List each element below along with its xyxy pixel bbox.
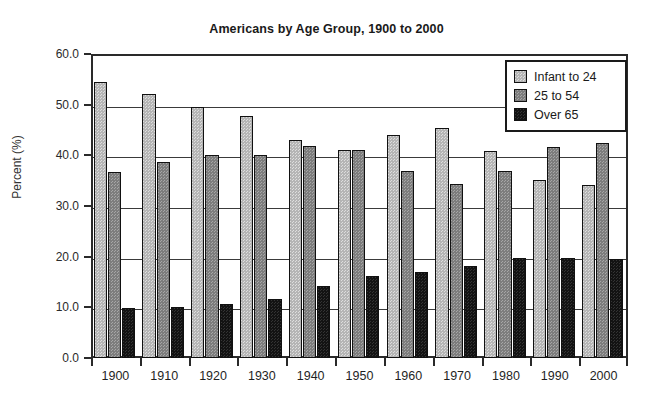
x-axis-tick-label: 1940 (297, 369, 325, 383)
x-axis-tick-mark (335, 358, 337, 366)
legend-item-label: Over 65 (534, 108, 578, 122)
y-axis-tick-mark (84, 306, 91, 308)
x-axis-tick-mark (91, 358, 93, 366)
x-axis-tick-label: 1970 (443, 369, 471, 383)
chart-title: Americans by Age Group, 1900 to 2000 (0, 22, 653, 36)
x-axis: 1900191019201930194019501960197019801990… (91, 358, 628, 398)
legend-swatch-icon (514, 108, 527, 121)
y-axis-tick-mark (84, 256, 91, 258)
x-axis-tick-mark (237, 358, 239, 366)
x-axis-tick-label: 1910 (150, 369, 178, 383)
y-axis-tick-label: 40.0 (56, 148, 79, 162)
gridline (93, 157, 626, 158)
gridline (93, 259, 626, 260)
legend-swatch-icon (514, 89, 527, 102)
y-axis-tick-mark (84, 104, 91, 106)
legend-item: 25 to 54 (514, 86, 619, 105)
x-axis-tick-label: 1960 (394, 369, 422, 383)
legend-item: Over 65 (514, 105, 619, 124)
x-axis-tick-mark (530, 358, 532, 366)
chart-legend: Infant to 2425 to 54Over 65 (505, 60, 627, 132)
y-axis-tick-label: 10.0 (56, 300, 79, 314)
chart-page: Americans by Age Group, 1900 to 2000 Per… (0, 0, 653, 412)
x-axis-tick-label: 2000 (590, 369, 618, 383)
x-axis-tick-label: 1990 (541, 369, 569, 383)
legend-item-label: 25 to 54 (534, 89, 579, 103)
x-axis-tick-mark (189, 358, 191, 366)
x-axis-tick-label: 1900 (102, 369, 130, 383)
y-axis-tick-mark (84, 357, 91, 359)
x-axis-tick-mark (384, 358, 386, 366)
y-axis-tick-label: 50.0 (56, 98, 79, 112)
x-axis-tick-mark (433, 358, 435, 366)
y-axis-tick-label: 20.0 (56, 250, 79, 264)
x-axis-tick-label: 1920 (199, 369, 227, 383)
gridline (93, 208, 626, 209)
x-axis-tick-mark (626, 358, 628, 366)
y-axis-tick-mark (84, 205, 91, 207)
legend-item-label: Infant to 24 (534, 70, 597, 84)
x-axis-tick-label: 1930 (248, 369, 276, 383)
x-axis-tick-label: 1950 (346, 369, 374, 383)
gridline (93, 309, 626, 310)
legend-swatch-icon (514, 70, 527, 83)
y-axis-tick-label: 60.0 (56, 47, 79, 61)
x-axis-tick-mark (140, 358, 142, 366)
x-axis-tick-label: 1980 (492, 369, 520, 383)
y-axis-tick-mark (84, 154, 91, 156)
y-axis: 0.010.020.030.040.050.060.0 (0, 54, 91, 358)
y-axis-tick-label: 0.0 (62, 351, 79, 365)
x-axis-tick-mark (579, 358, 581, 366)
legend-item: Infant to 24 (514, 67, 619, 86)
x-axis-tick-mark (286, 358, 288, 366)
x-axis-tick-mark (482, 358, 484, 366)
y-axis-tick-mark (84, 53, 91, 55)
y-axis-tick-label: 30.0 (56, 199, 79, 213)
